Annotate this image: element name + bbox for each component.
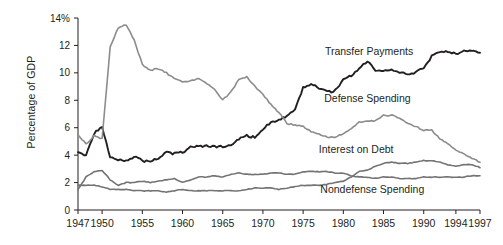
x-tick-label: 1947 — [66, 217, 90, 229]
x-tick-label: 1955 — [131, 217, 155, 229]
x-tick-label: 1960 — [171, 217, 195, 229]
annotation-interest-on-debt: Interest on Debt — [319, 143, 394, 155]
y-tick-label: 4 — [64, 150, 70, 161]
line-chart: 02468101214% 194719501955196019651970197… — [0, 0, 503, 245]
chart-container: Percentage of GDP 02468101214% 194719501… — [0, 0, 503, 245]
series-line-defense-spending — [78, 25, 480, 162]
annotation-transfer-payments: Transfer Payments — [325, 45, 413, 57]
y-tick-label: 0 — [64, 205, 70, 216]
annotation-defense-spending: Defense Spending — [324, 92, 411, 104]
x-tick-label: 1997 — [468, 217, 492, 229]
y-tick-label: 8 — [64, 95, 70, 106]
y-tick-label: 12 — [59, 40, 71, 51]
x-tick-label: 1990 — [412, 217, 436, 229]
x-tick-group: 1947195019551960196519701975198019851990… — [66, 210, 492, 229]
y-tick-label: 14% — [50, 13, 70, 24]
y-tick-group: 02468101214% — [50, 13, 78, 216]
x-tick-label: 1970 — [251, 217, 275, 229]
y-tick-label: 2 — [64, 177, 70, 188]
x-tick-label: 1975 — [291, 217, 315, 229]
y-tick-label: 10 — [59, 67, 71, 78]
x-tick-label: 1980 — [332, 217, 356, 229]
y-tick-label: 6 — [64, 122, 70, 133]
x-tick-label: 1994 — [444, 217, 468, 229]
x-tick-label: 1950 — [90, 217, 114, 229]
annotation-nondefense-spending: Nondefense Spending — [320, 183, 424, 195]
x-tick-label: 1985 — [372, 217, 396, 229]
x-tick-label: 1965 — [211, 217, 235, 229]
series-line-transfer-payments — [78, 50, 480, 161]
series-group — [78, 25, 480, 192]
